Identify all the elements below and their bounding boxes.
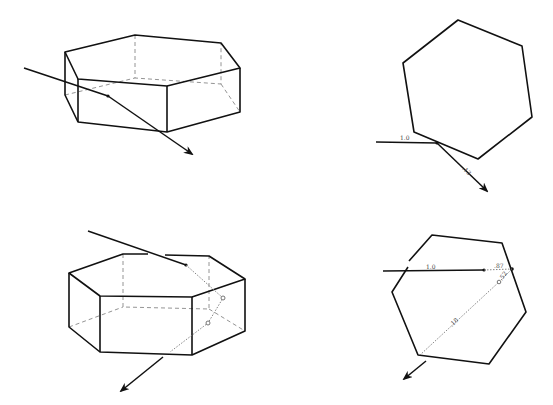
hexagon-outline	[392, 235, 526, 364]
hexagon-outline	[403, 20, 532, 159]
incident-ray	[88, 231, 186, 265]
incident-ray	[24, 68, 108, 96]
diagram-canvas: 1.0 .13 1.0 .87 .52 .18	[0, 0, 553, 405]
prism-3d-reflection	[24, 35, 240, 154]
reflected-ray-arrow	[108, 96, 192, 154]
label-internal2: .18	[448, 316, 460, 328]
hexagon-top-reflection: 1.0 .13	[376, 20, 532, 191]
incident-ray	[376, 142, 437, 143]
label-reflected: .13	[461, 165, 473, 177]
label-reflected: .87	[494, 262, 504, 269]
hidden-edges	[123, 254, 209, 309]
exit-ray-arrow	[404, 361, 426, 379]
label-incident: 1.0	[426, 263, 436, 270]
label-incident: 1.0	[400, 134, 410, 141]
label-internal1: .52	[497, 270, 508, 282]
hexagon-top-refraction: 1.0 .87 .52 .18	[383, 235, 526, 379]
exit-ray-arrow	[121, 357, 163, 391]
prism-side-edges	[65, 52, 240, 132]
reflected-ray-arrow	[437, 143, 487, 191]
prism-side-edges	[69, 273, 245, 355]
prism-top-face	[65, 35, 240, 86]
prism-3d-refraction	[69, 231, 245, 391]
incident-ray	[383, 270, 484, 271]
prism-top-face	[69, 254, 245, 297]
